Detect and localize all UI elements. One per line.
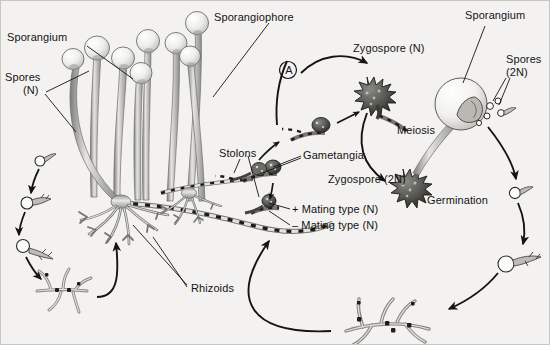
spore-germination-chain-left bbox=[17, 154, 118, 312]
mating-types-stage bbox=[245, 195, 279, 214]
label-zygospore-2n: Zygospore (2N) bbox=[328, 173, 406, 186]
label-spores-2n: Spores bbox=[506, 53, 541, 66]
young-zygosporangium-stage bbox=[282, 118, 330, 141]
mature-mycelium-bottom bbox=[249, 241, 429, 345]
label-plus-mating-type: + Mating type (N) bbox=[292, 203, 378, 216]
spore-stage-3 bbox=[17, 240, 54, 261]
label-spores-2n-ploidy: (2N) bbox=[506, 66, 528, 79]
life-cycle-artwork bbox=[1, 1, 550, 345]
germinating-spore-stage-2 bbox=[498, 252, 541, 272]
label-sporangiophore: Sporangiophore bbox=[214, 11, 294, 24]
conjugation-sequence bbox=[215, 56, 407, 213]
young-mycelium-left bbox=[37, 269, 91, 312]
mature-sporangium-right bbox=[435, 78, 516, 130]
label-meiosis: Meiosis bbox=[397, 124, 435, 137]
zygospore-n-stage bbox=[354, 77, 407, 131]
label-spores-n: Spores bbox=[5, 71, 40, 84]
label-stolons: Stolons bbox=[219, 147, 256, 160]
label-sporangium-right: Sporangium bbox=[465, 9, 525, 22]
spore-stage-1 bbox=[35, 154, 56, 166]
life-cycle-figure: Sporangium Spores (N) Sporangiophore Sto… bbox=[0, 0, 550, 345]
germinating-spore-stage-1 bbox=[509, 187, 533, 199]
label-germination: Germination bbox=[427, 194, 488, 207]
sporangiophore-cluster bbox=[62, 12, 209, 202]
germination-chain-right bbox=[449, 127, 541, 309]
label-sporangium-left: Sporangium bbox=[7, 31, 67, 44]
label-minus-mating-type: – Mating type (N) bbox=[292, 219, 378, 232]
spore-stage-2 bbox=[21, 194, 51, 209]
label-stage-a: A bbox=[284, 64, 294, 77]
label-gametangia: Gametangia bbox=[303, 149, 364, 162]
label-spores-n-ploidy: (N) bbox=[23, 84, 39, 97]
label-zygospore-n: Zygospore (N) bbox=[353, 42, 425, 55]
gametangia-stage bbox=[215, 160, 281, 181]
label-rhizoids: Rhizoids bbox=[191, 282, 234, 295]
